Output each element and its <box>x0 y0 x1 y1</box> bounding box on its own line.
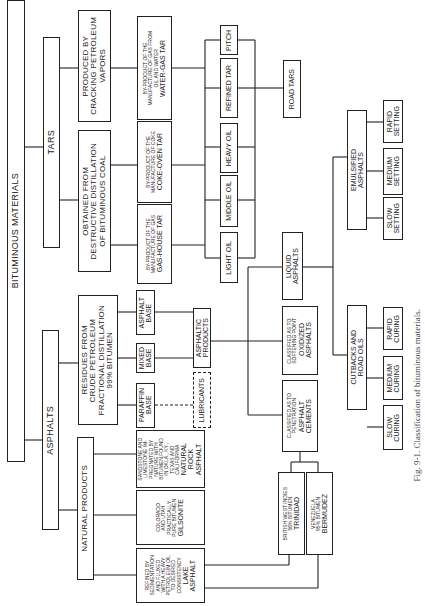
middle-oil-box: MIDDLE OIL <box>220 175 238 227</box>
light-oil-box: LIGHT OIL <box>220 232 238 283</box>
road-tars-box: ROAD TARS <box>283 60 301 118</box>
asphalts-box: ASPHALTS <box>42 330 59 530</box>
lake-asphalt-box: LAKE ASPHALT REFINED BY SEDIMENTATION AN… <box>136 548 205 603</box>
cracking-source-box: PRODUCED BY CRACKING PETROLEUM VAPORS <box>78 10 111 122</box>
residues-box: RESIDUES FROM CRUDE PETROLEUM FRACTIONAL… <box>78 295 118 425</box>
lubricants-box: LUBRICANTS <box>193 372 211 428</box>
rapid-curing-box: RAPID CURING <box>383 307 403 350</box>
figure-caption: Fig. 9-1. Classification of bituminous m… <box>411 230 425 560</box>
paraffin-base-box: PARAFFIN BASE <box>136 383 155 428</box>
connector-lines <box>0 0 425 606</box>
title-box: BITUMINOUS MATERIALS <box>7 0 25 462</box>
gilsonite-box: GILSONITE COLORADO AND UTAH PRACTICALLY … <box>136 490 205 545</box>
slow-curing-box: SLOW CURING <box>383 405 403 450</box>
gas-house-tar-box: GAS-HOUSE TAR BY-PRODUCT OF THE MANUFACT… <box>137 204 172 284</box>
asphalt-cements-box: ASPHALT CEMENTS CLASSIFIED AS TO PENETRA… <box>282 380 318 452</box>
natural-rock-asphalt-box: NATURAL ROCK ASPHALT SANDSTONE AND LIMES… <box>136 430 205 488</box>
oxidized-asphalts-box: OXIDIZED ASPHALTS CLASSIFIED AS TO SOFTE… <box>282 306 318 375</box>
natural-products-box: NATURAL PRODUCTS <box>77 437 94 580</box>
coke-oven-tar-box: COKE-OVEN TAR BY-PRODUCT OF THE MANUFACT… <box>137 121 172 203</box>
tars-box: TARS <box>43 37 60 248</box>
refined-tar-box: REFINED TAR <box>220 58 238 118</box>
emulsified-asphalts-box: EMULSIFIED ASPHALTS <box>347 110 367 230</box>
mixed-base-box: MIXED BASE <box>136 343 155 373</box>
asphaltic-products-box: ASPHALTIC PRODUCTS <box>193 308 211 368</box>
heavy-oil-box: HEAVY OIL <box>220 123 238 173</box>
rapid-setting-box: RAPID SETTING <box>383 100 403 143</box>
cutbacks-box: CUTBACKS AND ROAD OILS <box>347 305 367 410</box>
coal-distillation-box: OBTAINED FROM DESTRUCTIVE DISTILLATION O… <box>78 130 111 272</box>
medium-setting-box: MEDIUM SETTING <box>383 148 403 195</box>
trinidad-box: TRINIDAD BRITISH WEST INDIES 56% BITUMEN <box>278 472 305 555</box>
asphalt-base-box: ASPHALT BASE <box>136 290 155 335</box>
liquid-asphalts-box: LIQUID ASPHALTS <box>282 232 303 300</box>
asphalts-label: ASPHALTS <box>46 406 55 455</box>
water-gas-tar-box: WATER-GAS TAR BY-PRODUCT OF THE MANUFACT… <box>137 16 172 120</box>
title: BITUMINOUS MATERIALS <box>11 173 20 288</box>
tars-label: TARS <box>47 130 56 155</box>
pitch-box: PITCH <box>220 25 238 55</box>
medium-curing-box: MEDIUM CURING <box>383 356 403 400</box>
bermudez-box: BERMUDEZ VENEZUELA 95% BITUMEN <box>306 472 333 555</box>
slow-setting-box: SLOW SETTING <box>383 197 403 240</box>
